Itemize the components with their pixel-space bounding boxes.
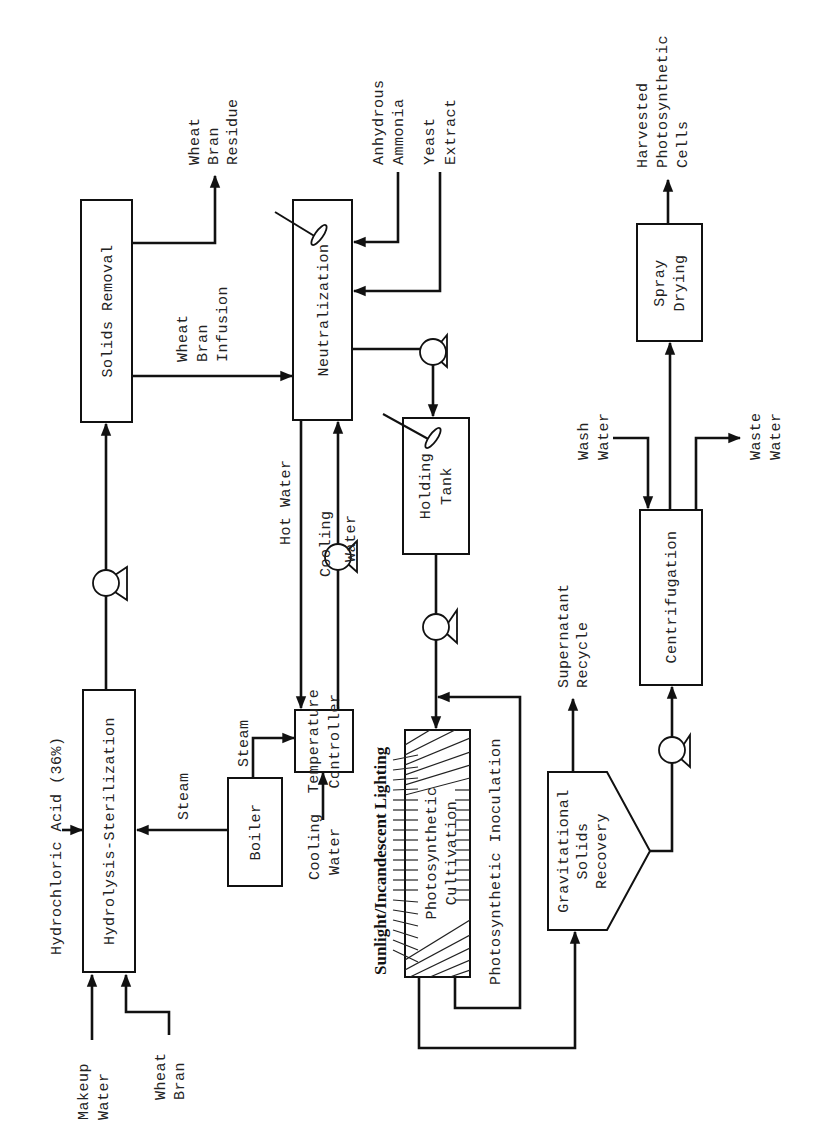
stream-wash-water <box>613 438 648 508</box>
label-lighting: Sunlight/Incandescent Lighting <box>371 746 390 975</box>
unit-label-line1: Holding <box>418 453 435 520</box>
stream-wheat-bran-residue <box>132 176 215 243</box>
unit-label-line2: Drying <box>672 254 689 311</box>
label-waste-water: Waste Water <box>748 412 785 460</box>
unit-boiler: Boiler <box>228 778 282 886</box>
unit-hydrolysis-sterilization: Hydrolysis-Sterilization <box>83 690 135 972</box>
svg-text:Water: Water <box>768 412 785 460</box>
svg-text:Photosynthetic: Photosynthetic <box>655 35 672 168</box>
svg-text:Water: Water <box>343 514 360 562</box>
unit-solids-removal: Solids Removal <box>81 200 132 422</box>
pump-icon <box>659 735 690 767</box>
unit-label: Solids Removal <box>100 244 117 377</box>
pump-icon <box>423 610 457 643</box>
unit-gravitational-solids-recovery: Gravitational Solids Recovery <box>548 772 650 930</box>
svg-text:Wash: Wash <box>576 422 593 460</box>
stream-steam-controller <box>253 738 294 778</box>
unit-label-line1: Spray <box>652 259 669 307</box>
process-flow-diagram: Solids Removal Neutralization Hydrolysis… <box>0 0 816 1147</box>
unit-centrifugation: Centrifugation <box>640 510 702 685</box>
svg-text:Water: Water <box>327 827 344 875</box>
unit-label-line3: Recovery <box>594 813 611 889</box>
svg-text:Ammonia: Ammonia <box>391 98 408 165</box>
stream-concentrate <box>650 763 672 851</box>
label-wash-water: Wash Water <box>576 412 613 460</box>
svg-text:Water: Water <box>96 1072 113 1120</box>
svg-text:Harvested: Harvested <box>635 82 652 168</box>
unit-label-line2: Solids <box>575 822 592 879</box>
unit-label-line2: Tank <box>439 467 456 505</box>
svg-text:Yeast: Yeast <box>422 117 439 165</box>
unit-label-line2: Controller <box>327 693 344 788</box>
label-anhydrous-ammonia: Anhydrous Ammonia <box>371 79 408 165</box>
label-hydrochloric-acid: Hydrochloric Acid (36%) <box>49 736 66 955</box>
unit-neutralization: Neutralization <box>275 200 352 420</box>
unit-spray-drying: Spray Drying <box>637 224 702 341</box>
svg-text:Waste: Waste <box>748 412 765 460</box>
svg-text:Wheat: Wheat <box>175 314 192 362</box>
unit-label-line2: Cultivation <box>444 801 461 906</box>
unit-label-line1: Gravitational <box>556 789 573 913</box>
pump-icon <box>93 567 127 600</box>
svg-text:Anhydrous: Anhydrous <box>371 79 388 165</box>
label-hot-water: Hot Water <box>278 459 295 545</box>
unit-label: Neutralization <box>316 243 333 376</box>
svg-text:Cells: Cells <box>675 120 692 168</box>
label-cooling-water-in: Cooling Water <box>307 813 344 880</box>
svg-text:Bran: Bran <box>206 127 223 165</box>
label-wheat-bran-residue: Wheat Bran Residue <box>187 98 242 165</box>
svg-text:Wheat: Wheat <box>187 117 204 165</box>
svg-text:Residue: Residue <box>225 98 242 165</box>
label-supernatant-recycle: Supernatant Recycle <box>556 583 592 688</box>
label-photosynthetic-inoculation: Photosynthetic Inoculation <box>488 738 505 985</box>
unit-label: Centrifugation <box>664 530 681 663</box>
svg-text:Bran: Bran <box>172 1062 189 1100</box>
svg-text:Bran: Bran <box>195 324 212 362</box>
svg-text:Cooling: Cooling <box>318 510 335 577</box>
svg-text:Cooling: Cooling <box>307 813 324 880</box>
unit-label-line1: Temperature <box>306 689 323 794</box>
svg-text:Supernatant: Supernatant <box>556 583 573 688</box>
unit-label-line1: Photosynthetic <box>424 786 441 919</box>
stream-waste-water <box>696 438 740 510</box>
label-yeast-extract: Yeast Extract <box>422 98 460 165</box>
stream-wheat-bran <box>126 975 169 1035</box>
label-harvested-cells: Harvested Photosynthetic Cells <box>635 35 692 168</box>
unit-label: Hydrolysis-Sterilization <box>102 717 119 945</box>
unit-label: Boiler <box>248 803 265 860</box>
label-wheat-bran: Wheat Bran <box>153 1052 189 1100</box>
pump-icon <box>420 335 447 367</box>
svg-text:Wheat: Wheat <box>153 1052 170 1100</box>
label-steam-hydrolysis: Steam <box>176 772 193 820</box>
stream-anhydrous-ammonia <box>354 172 398 242</box>
unit-holding-tank: Holding Tank <box>383 414 469 554</box>
label-steam-controller: Steam <box>236 719 253 767</box>
unit-photosynthetic-cultivation: Photosynthetic Cultivation <box>393 730 470 977</box>
svg-text:Extract: Extract <box>443 98 460 165</box>
label-wheat-bran-infusion: Wheat Bran Infusion <box>175 286 232 362</box>
label-makeup-water: Makeup Water <box>76 1063 113 1120</box>
svg-text:Makeup: Makeup <box>76 1063 93 1120</box>
svg-text:Recycle: Recycle <box>575 621 592 688</box>
svg-text:Water: Water <box>596 412 613 460</box>
svg-text:Infusion: Infusion <box>215 286 232 362</box>
